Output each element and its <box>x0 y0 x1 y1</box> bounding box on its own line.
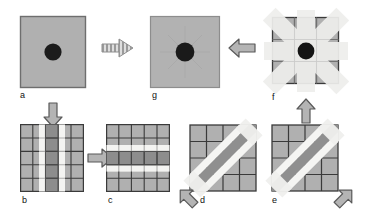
figure-canvas: a <box>0 0 366 221</box>
panel-a-graphic <box>20 16 86 88</box>
panel-f <box>264 10 348 92</box>
arrow-f-to-g <box>228 38 256 58</box>
panel-g-graphic <box>150 16 220 88</box>
panel-g-label: g <box>152 90 157 100</box>
panel-g <box>150 16 220 88</box>
arrow-a-to-g <box>102 38 134 58</box>
arrow-into-e <box>332 186 356 210</box>
panel-e-graphic <box>271 124 339 192</box>
panel-c-graphic <box>106 124 170 192</box>
panel-e <box>271 124 339 192</box>
panel-a-label: a <box>20 90 25 100</box>
panel-c-label: c <box>108 195 113 205</box>
blob-icon <box>44 43 61 60</box>
panel-c <box>106 124 170 192</box>
panel-d-label: d <box>200 195 205 205</box>
panel-d <box>189 124 257 192</box>
panel-e-label: e <box>272 195 277 205</box>
panel-f-label: f <box>272 92 275 102</box>
blob-icon <box>176 43 195 62</box>
panel-b-label: b <box>22 195 27 205</box>
panel-a <box>20 16 86 88</box>
panel-b-graphic <box>20 124 84 192</box>
arrow-into-d <box>176 186 200 210</box>
arrow-e-to-f <box>296 98 316 124</box>
panel-d-graphic <box>189 124 257 192</box>
panel-b <box>20 124 84 192</box>
blob-icon <box>298 43 315 60</box>
panel-f-graphic <box>264 10 348 92</box>
